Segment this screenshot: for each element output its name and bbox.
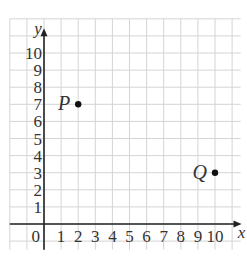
y-tick-label: 6 [34, 112, 43, 131]
point-q-marker [212, 170, 218, 176]
x-tick-label: 6 [142, 227, 151, 246]
y-tick-label: 5 [34, 130, 43, 149]
x-tick-label: 7 [159, 227, 168, 246]
y-tick-label: 9 [34, 61, 43, 80]
x-tick-label: 2 [74, 227, 83, 246]
x-axis-label: x [237, 223, 246, 242]
y-tick-label: 10 [25, 44, 42, 63]
origin-label: 0 [32, 227, 41, 246]
y-tick-label: 8 [34, 78, 43, 97]
point-q-label: Q [193, 161, 208, 183]
x-tick-label: 1 [57, 227, 66, 246]
x-tick-label: 10 [207, 227, 224, 246]
y-tick-label: 2 [34, 181, 43, 200]
plotted-points: PQ [57, 92, 218, 182]
x-tick-label: 3 [91, 227, 100, 246]
point-p-marker [75, 101, 81, 107]
x-tick-label: 4 [108, 227, 117, 246]
x-tick-label: 9 [194, 227, 203, 246]
coordinate-grid-diagram: 12345678910123456789100xy PQ [0, 0, 247, 262]
x-tick-label: 8 [177, 227, 186, 246]
coordinate-plane: 12345678910123456789100xy PQ [0, 0, 247, 262]
y-tick-label: 4 [34, 147, 43, 166]
y-tick-label: 3 [34, 164, 43, 183]
y-tick-label: 7 [34, 95, 43, 114]
y-tick-label: 1 [34, 198, 43, 217]
x-tick-label: 5 [125, 227, 134, 246]
y-axis-label: y [32, 19, 42, 38]
point-p-label: P [57, 92, 70, 114]
